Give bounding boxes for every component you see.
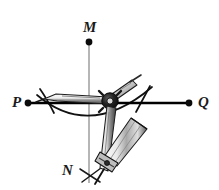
label-point-m: M: [83, 20, 96, 35]
label-point-q: Q: [198, 95, 209, 110]
arc-cross-right: [136, 86, 150, 112]
label-point-p: P: [12, 95, 21, 110]
compass-instrument: [36, 75, 147, 184]
geometry-figure: M N P Q: [0, 0, 219, 190]
point-q-dot: [186, 100, 193, 107]
point-p-dot: [25, 100, 32, 107]
point-m-dot: [86, 39, 93, 46]
figure-canvas: [0, 0, 219, 190]
label-point-n: N: [62, 163, 73, 178]
arc-cross-left: [40, 89, 54, 113]
